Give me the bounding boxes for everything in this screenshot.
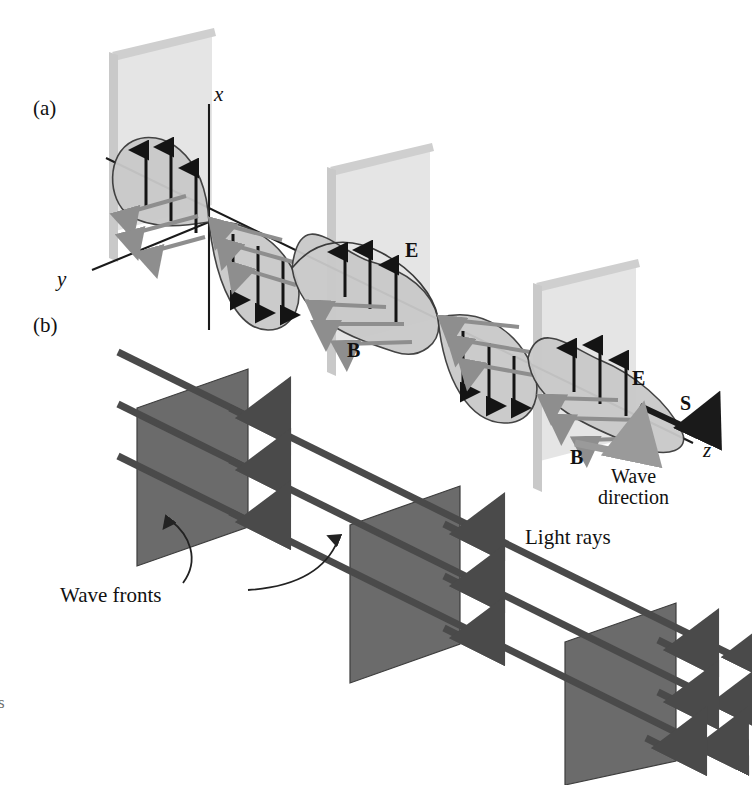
b-field-label-1: B bbox=[347, 340, 360, 360]
y-axis-label: y bbox=[57, 269, 66, 290]
light-rays-label: Light rays bbox=[525, 527, 611, 548]
e-field-label-1: E bbox=[405, 240, 418, 260]
wave-direction-line-1: Wave bbox=[598, 466, 669, 487]
panel-label-b: (b) bbox=[33, 315, 58, 336]
poynting-vector-label: S bbox=[680, 393, 691, 413]
z-axis-label: z bbox=[703, 440, 711, 461]
b-field-label-2: B bbox=[570, 447, 583, 467]
panel-label-a: (a) bbox=[33, 98, 56, 119]
wave-lobe-4 bbox=[438, 315, 537, 423]
figure-canvas: (a) (b) x y z E B E B S Wave direction W… bbox=[0, 0, 752, 785]
x-axis-label: x bbox=[214, 84, 223, 105]
e-field-label-2: E bbox=[632, 368, 645, 388]
margin-clipped-character: s bbox=[0, 694, 5, 711]
wave-lobe-2 bbox=[209, 222, 299, 330]
wave-direction-line-2: direction bbox=[598, 487, 669, 508]
wave-front-plane-1 bbox=[137, 369, 248, 566]
wave-fronts-label: Wave fronts bbox=[60, 585, 162, 606]
wave-direction-label: Wave direction bbox=[598, 466, 669, 508]
em-wave-figure bbox=[0, 0, 752, 785]
